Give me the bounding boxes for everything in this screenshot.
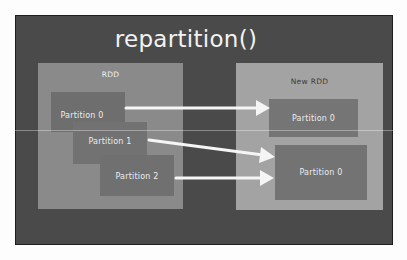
target-rdd-label: New RDD [236, 77, 383, 86]
target-partition-top: Partition 0 [269, 99, 358, 137]
diagram-title: repartition() [100, 19, 272, 59]
scan-artifact-line [15, 130, 393, 131]
target-partition-bottom: Partition 0 [275, 145, 367, 200]
source-partition-0-label: Partition 0 [60, 111, 103, 120]
source-rdd-label: RDD [38, 70, 183, 79]
target-partition-bottom-label: Partition 0 [299, 168, 342, 177]
source-partition-1-label: Partition 1 [88, 137, 131, 146]
source-partition-2: Partition 2 [100, 155, 174, 196]
source-partition-2-label: Partition 2 [115, 172, 158, 181]
target-partition-top-label: Partition 0 [292, 114, 335, 123]
